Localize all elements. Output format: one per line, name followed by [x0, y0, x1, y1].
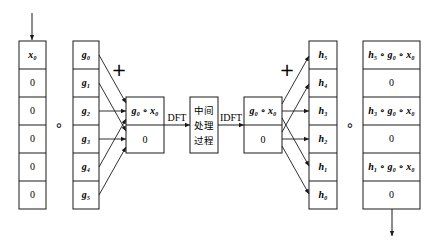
output-cell: 0 — [389, 77, 394, 88]
input-cell: 0 — [30, 77, 35, 88]
sum-box-right: g₀ ∘ x₀ 0 — [244, 97, 282, 153]
sum-box-left: g₀ ∘ x₀ 0 — [126, 97, 164, 153]
sum-cell: g₀ ∘ x₀ — [248, 105, 277, 116]
g-cell: g₁ — [81, 77, 91, 88]
g-cell: g₄ — [81, 161, 91, 172]
diagram-canvas: x₀ 0 0 0 0 0 ∘ g₀ g₁ g₂ g₃ g₄ g₅ + g₀ ∘ — [0, 0, 434, 250]
output-cell: 0 — [389, 133, 394, 144]
plus-sign-right: + — [279, 59, 294, 80]
process-line: 中间 — [194, 105, 214, 116]
g-cell: g₃ — [81, 133, 91, 144]
compose-operator-right: ∘ — [346, 117, 355, 133]
process-line: 处理 — [194, 120, 214, 131]
sum-cell: 0 — [143, 134, 148, 145]
input-column: x₀ 0 0 0 0 0 — [19, 41, 46, 209]
idft-label: IDFT — [220, 112, 242, 123]
h-cell: h₄ — [318, 77, 327, 88]
g-cell: g₂ — [81, 105, 91, 116]
h-cell: h₂ — [318, 133, 327, 144]
h-column: h₅ h₄ h₃ h₂ h₁ h₀ — [309, 41, 337, 209]
h-cell: h₀ — [318, 189, 328, 200]
output-cell: h₁ ∘ g₀ ∘ x₀ — [368, 161, 415, 172]
dft-label: DFT — [168, 112, 187, 123]
input-cell: 0 — [30, 161, 35, 172]
input-cell: 0 — [30, 189, 35, 200]
process-line: 过程 — [194, 135, 214, 146]
h-cell: h₁ — [318, 161, 327, 172]
compose-operator-left: ∘ — [55, 117, 64, 133]
output-cell: 0 — [389, 189, 394, 200]
h-cell: h₃ — [318, 105, 327, 116]
output-cell: h₃ ∘ g₀ ∘ x₀ — [368, 105, 415, 116]
input-cell: 0 — [30, 133, 35, 144]
output-cell: h₅ ∘ g₀ ∘ x₀ — [368, 49, 415, 60]
input-cell: x₀ — [27, 49, 37, 60]
plus-sign-left: + — [111, 59, 126, 80]
h-cell: h₅ — [318, 49, 327, 60]
g-cell: g₅ — [81, 189, 91, 200]
sum-cell: g₀ ∘ x₀ — [130, 105, 159, 116]
g-column: g₀ g₁ g₂ g₃ g₄ g₅ — [73, 41, 99, 209]
process-box: 中间 处理 过程 — [190, 97, 218, 153]
input-cell: 0 — [30, 105, 35, 116]
output-column: h₅ ∘ g₀ ∘ x₀ 0 h₃ ∘ g₀ ∘ x₀ 0 h₁ ∘ g₀ ∘ … — [363, 41, 420, 209]
sum-cell: 0 — [261, 134, 266, 145]
g-cell: g₀ — [81, 49, 91, 60]
